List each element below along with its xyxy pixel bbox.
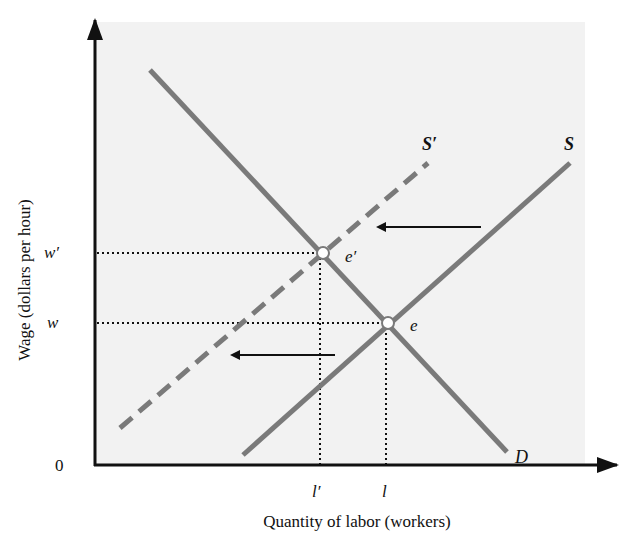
labor-market-chart: S′ S D e′ e w′ w 0 l′ l Quantity of labo…: [0, 0, 635, 554]
label-S-prime: S′: [422, 134, 437, 154]
equilibrium-point-e-prime: [317, 247, 329, 259]
x-axis-title: Quantity of labor (workers): [263, 512, 450, 531]
label-e: e: [410, 316, 418, 335]
tick-l: l: [382, 482, 387, 501]
label-e-prime: e′: [345, 247, 357, 266]
tick-w-prime: w′: [44, 243, 59, 262]
equilibrium-point-e: [382, 317, 394, 329]
label-S: S: [564, 134, 574, 154]
label-D: D: [514, 447, 528, 467]
y-axis-title: Wage (dollars per hour): [15, 199, 34, 360]
origin-label: 0: [55, 456, 64, 475]
tick-l-prime: l′: [312, 482, 321, 501]
tick-w: w: [47, 313, 59, 332]
